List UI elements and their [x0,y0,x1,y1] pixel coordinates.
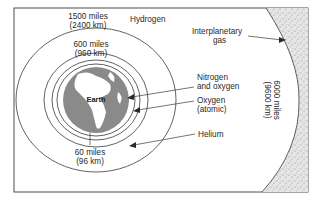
atmosphere-diagram: Earth 1500 miles (2400 km) 600 miles (96… [0,0,324,206]
label-960-km: (960 km) [75,49,108,58]
label-96-km: (96 km) [76,157,104,166]
label-600-miles: 600 miles [73,40,108,49]
label-6000-miles: 6000 miles [272,80,281,120]
label-interplanetary-line1: Interplanetary [192,27,243,36]
label-2400-km: (2400 km) [70,21,107,30]
label-nitrogen-line1: Nitrogen [197,73,228,82]
label-interplanetary-line2: gas [213,36,226,45]
label-oxygen-line2: (atomic) [197,105,227,114]
label-oxygen-line1: Oxygen [197,96,226,105]
label-9600-km: (9600 km) [263,82,272,119]
earth-label: Earth [86,95,106,104]
label-hydrogen: Hydrogen [130,15,166,24]
label-60-miles: 60 miles [75,148,106,157]
label-nitrogen-line2: and oxygen [197,82,240,91]
label-1500-miles: 1500 miles [68,12,108,21]
label-helium: Helium [198,130,224,139]
